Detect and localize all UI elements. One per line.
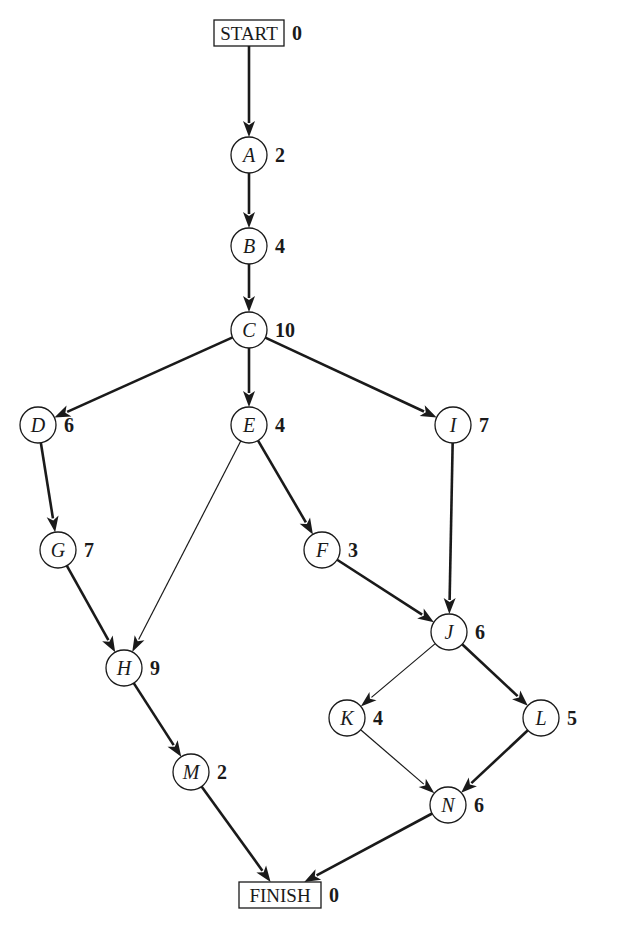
- arrowhead-icon: [132, 635, 144, 652]
- edge-e-to-f: [258, 441, 313, 535]
- node-duration: 7: [84, 539, 94, 561]
- edge-line: [67, 566, 109, 640]
- node-duration: 4: [373, 707, 383, 729]
- node-label: L: [534, 707, 546, 729]
- terminal-label: START: [220, 23, 278, 44]
- node-label: F: [315, 539, 329, 561]
- terminal-start: START0: [214, 20, 302, 46]
- arrowhead-icon: [102, 635, 115, 652]
- node-duration: 2: [217, 761, 227, 783]
- node-i: I7: [435, 407, 489, 443]
- node-label: E: [242, 414, 255, 436]
- node-a: A2: [231, 137, 285, 173]
- node-k: K4: [329, 700, 383, 736]
- arrowhead-icon: [168, 740, 182, 757]
- node-label: A: [241, 144, 256, 166]
- edge-k-to-n: [361, 730, 435, 794]
- edge-i-to-j: [444, 443, 456, 614]
- arrowhead-icon: [243, 391, 255, 407]
- edge-l-to-n: [461, 730, 528, 792]
- node-duration: 7: [479, 414, 489, 436]
- node-duration: 9: [150, 657, 160, 679]
- edge-line: [361, 730, 424, 784]
- node-duration: 5: [567, 707, 577, 729]
- node-duration: 6: [64, 414, 74, 436]
- node-label: D: [30, 414, 46, 436]
- arrowhead-icon: [444, 598, 456, 614]
- node-label: H: [116, 657, 133, 679]
- node-label: M: [182, 761, 201, 783]
- edge-c-to-i: [265, 338, 436, 418]
- node-label: K: [339, 707, 355, 729]
- node-label: I: [449, 414, 458, 436]
- edge-e-to-h: [132, 441, 241, 652]
- node-c: C10: [231, 312, 295, 348]
- edge-line: [462, 644, 517, 696]
- edge-f-to-j: [337, 560, 434, 622]
- node-d: D6: [20, 407, 74, 443]
- edge-a-to-b: [243, 173, 255, 228]
- edge-j-to-l: [462, 644, 528, 705]
- nodes-layer: START0FINISH0A2B4C10D6E4I7G7F3J6H9K4L5M2…: [20, 20, 577, 908]
- edge-line: [258, 441, 306, 523]
- node-label: J: [445, 621, 455, 643]
- node-b: B4: [231, 228, 285, 264]
- node-m: M2: [173, 754, 227, 790]
- edge-j-to-k: [361, 644, 435, 707]
- edge-line: [371, 644, 435, 698]
- edge-m-to-finish: [202, 787, 271, 882]
- node-label: C: [242, 319, 256, 341]
- edge-c-to-d: [54, 337, 232, 417]
- arrowhead-icon: [417, 609, 434, 623]
- node-h: H9: [106, 650, 160, 686]
- arrowhead-icon: [361, 692, 377, 707]
- node-duration: 4: [275, 235, 285, 257]
- edge-line: [67, 337, 232, 411]
- edge-d-to-g: [41, 443, 59, 532]
- node-e: E4: [231, 407, 285, 443]
- edge-line: [265, 338, 424, 412]
- arrowhead-icon: [243, 296, 255, 312]
- edge-line: [337, 560, 422, 615]
- node-duration: 10: [275, 319, 295, 341]
- node-duration: 3: [348, 539, 358, 561]
- terminal-duration: 0: [292, 22, 302, 44]
- node-f: F3: [304, 532, 358, 568]
- arrowhead-icon: [243, 121, 255, 137]
- node-j: J6: [431, 614, 485, 650]
- edge-line: [134, 683, 174, 745]
- node-l: L5: [523, 700, 577, 736]
- node-n: N6: [430, 787, 484, 823]
- node-duration: 6: [474, 794, 484, 816]
- node-label: G: [51, 539, 66, 561]
- edge-line: [41, 443, 53, 519]
- node-duration: 6: [475, 621, 485, 643]
- edge-line: [471, 730, 527, 783]
- edge-line: [317, 814, 433, 876]
- arrowhead-icon: [256, 866, 270, 882]
- edge-line: [450, 443, 453, 600]
- terminal-finish: FINISH0: [239, 882, 339, 908]
- node-duration: 2: [275, 144, 285, 166]
- terminal-label: FINISH: [249, 885, 311, 906]
- node-duration: 4: [275, 414, 285, 436]
- edge-c-to-e: [243, 348, 255, 407]
- edge-start-to-a: [243, 46, 255, 137]
- edge-g-to-h: [67, 566, 115, 653]
- edge-h-to-m: [134, 683, 182, 757]
- edge-line: [202, 787, 263, 871]
- terminal-duration: 0: [329, 884, 339, 906]
- edge-n-to-finish: [304, 814, 432, 883]
- edges-layer: [41, 46, 528, 882]
- arrowhead-icon: [243, 212, 255, 228]
- arrowhead-icon: [419, 779, 435, 794]
- edge-line: [139, 441, 241, 640]
- node-label: N: [440, 794, 456, 816]
- node-g: G7: [40, 532, 94, 568]
- edge-b-to-c: [243, 264, 255, 312]
- arrowhead-icon: [300, 518, 313, 535]
- node-label: B: [243, 235, 255, 257]
- activity-network-diagram: START0FINISH0A2B4C10D6E4I7G7F3J6H9K4L5M2…: [0, 0, 618, 938]
